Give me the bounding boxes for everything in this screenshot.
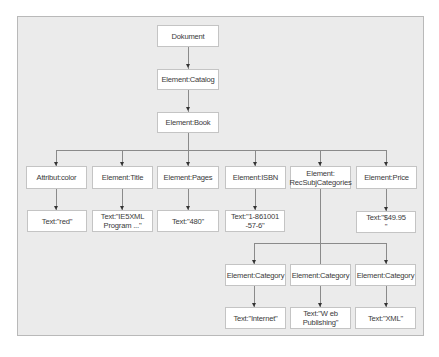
node-text-red: Text:"red" [27, 210, 87, 232]
connector-line [320, 189, 321, 243]
arrow-head [186, 64, 190, 68]
connector-line [320, 243, 321, 264]
node-text-xml: Text:"XML" [355, 307, 416, 329]
node-element-book: Element:Book [157, 112, 219, 133]
node-element-isbn: Element:ISBN [225, 166, 286, 189]
node-element-price: Element:Price [356, 166, 417, 189]
node-text-title: Text:"IE5XML Program ..." [92, 210, 153, 232]
arrow-head [186, 107, 190, 111]
node-element-pages: Element:Pages [157, 166, 219, 189]
node-text-pages: Text:"480" [157, 210, 219, 232]
node-element-title: Element:Title [92, 166, 153, 189]
node-dokument: Dokument [157, 25, 219, 47]
node-attribut-color: Attribut:color [26, 166, 87, 189]
node-element-category-3: Element:Category [355, 264, 416, 286]
node-element-category-1: Element:Category [225, 264, 286, 286]
node-element-catalog: Element:Catalog [157, 69, 219, 90]
node-text-web-publishing: Text:"W eb Publishing" [290, 307, 351, 329]
node-element-category-2: Element:Category [290, 264, 351, 286]
connector-line [188, 133, 189, 150]
connector-line [56, 150, 386, 151]
node-text-internet: Text:"Internet" [225, 307, 286, 329]
node-text-isbn: Text:"1-861001 -57-6" [225, 210, 285, 232]
node-text-price: Text:"$49.95 " [356, 211, 416, 233]
node-element-recsubjcategories: Element: RecSubjCategories [290, 166, 351, 189]
